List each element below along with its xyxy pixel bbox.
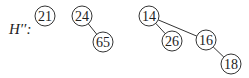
node-key: 65 [96, 35, 110, 50]
node-key: 21 [38, 9, 52, 24]
heap-node-26: 26 [162, 31, 182, 51]
heap-node-16: 16 [196, 30, 216, 50]
node-key: 24 [75, 9, 89, 24]
heap-node-24: 24 [72, 6, 92, 26]
binomial-heap-diagram: H′′: 21246514261618 [0, 0, 249, 78]
heap-node-65: 65 [93, 32, 113, 52]
heap-node-21: 21 [35, 6, 55, 26]
heap-label: H′′: [9, 22, 31, 37]
node-key: 16 [199, 33, 213, 48]
node-key: 26 [165, 34, 179, 49]
tree-edge [156, 23, 165, 33]
node-key: 18 [224, 57, 238, 72]
heap-trees: 21246514261618 [0, 0, 249, 78]
heap-node-14: 14 [139, 6, 159, 26]
tree-edge [213, 47, 224, 57]
node-key: 14 [142, 9, 156, 24]
tree-edge [88, 24, 96, 34]
heap-node-18: 18 [221, 54, 241, 74]
